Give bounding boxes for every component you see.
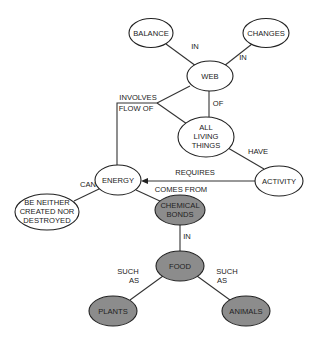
node-neither-line3: DESTROYED <box>23 216 71 225</box>
label-balance-web: IN <box>191 42 199 51</box>
node-animals-text: ANIMALS <box>229 307 262 316</box>
node-balance: BALANCE <box>129 19 173 48</box>
node-web-text: WEB <box>201 72 218 81</box>
node-animals: ANIMALS <box>222 296 270 326</box>
edge-changes-web <box>224 44 252 66</box>
arrowhead-icon <box>141 178 148 184</box>
node-food-text: FOOD <box>169 262 191 271</box>
node-energy-text: ENERGY <box>102 176 134 185</box>
node-balance-text: BALANCE <box>133 29 168 38</box>
node-neither-line1: BE NEITHER <box>24 198 70 207</box>
node-activity: ACTIVITY <box>255 166 303 196</box>
label-flow-of: FLOW OF <box>119 104 154 113</box>
node-energy: ENERGY <box>95 165 141 195</box>
label-such-plants-1: SUCH <box>117 267 139 276</box>
node-changes: CHANGES <box>243 19 289 48</box>
label-can: CAN <box>80 180 96 189</box>
edge-flow-to-living <box>157 103 187 124</box>
node-food: FOOD <box>156 251 204 281</box>
node-living-line2: LIVING <box>194 132 219 141</box>
edge-energy-neither <box>74 189 99 201</box>
node-bonds-line2: BONDS <box>166 210 193 219</box>
node-web: WEB <box>187 61 233 91</box>
node-plants: PLANTS <box>89 296 137 326</box>
label-such-animals-1: SUCH <box>216 267 238 276</box>
node-living-line1: ALL <box>199 123 213 132</box>
label-such-plants-2: AS <box>129 276 139 285</box>
node-be-neither: BE NEITHER CREATED NOR DESTROYED <box>15 194 79 230</box>
label-changes-web: IN <box>239 53 247 62</box>
node-chemical-bonds: CHEMICAL BONDS <box>155 195 205 225</box>
node-all-living-things: ALL LIVING THINGS <box>178 117 234 157</box>
node-bonds-line1: CHEMICAL <box>160 201 199 210</box>
node-activity-text: ACTIVITY <box>262 177 296 186</box>
label-have: HAVE <box>248 147 268 156</box>
label-comes-from: COMES FROM <box>155 185 207 194</box>
node-plants-text: PLANTS <box>98 307 128 316</box>
label-involves: INVOLVES <box>119 93 156 102</box>
node-changes-text: CHANGES <box>247 29 285 38</box>
node-living-line3: THINGS <box>192 141 221 150</box>
edge-flow-to-web <box>157 86 190 103</box>
label-such-animals-2: AS <box>217 276 227 285</box>
label-bonds-food: IN <box>183 232 191 241</box>
label-requires: REQUIRES <box>175 168 215 177</box>
label-web-living: OF <box>213 99 224 108</box>
concept-map: IN IN OF INVOLVES FLOW OF HAVE REQUIRES … <box>0 0 313 337</box>
edge-labels: IN IN OF INVOLVES FLOW OF HAVE REQUIRES … <box>80 42 268 285</box>
node-neither-line2: CREATED NOR <box>20 207 75 216</box>
